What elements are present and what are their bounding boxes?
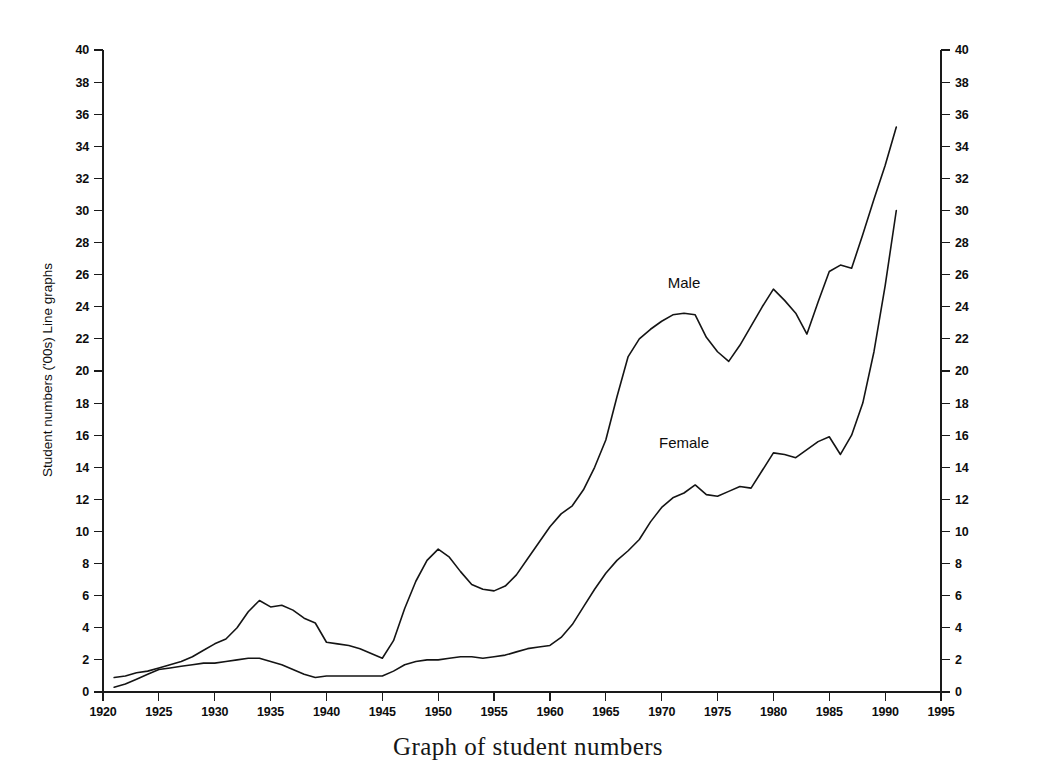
y-tick-label-right: 14 (955, 461, 969, 475)
y-tick-label-left: 32 (75, 172, 89, 186)
y-tick-label-right: 34 (955, 140, 969, 154)
chart-title: Graph of student numbers (393, 733, 663, 760)
y-tick-label-right: 40 (955, 43, 969, 57)
x-tick-label: 1995 (927, 705, 954, 719)
left-y-tick-group: 0246810121416182022242628303234363840 (75, 43, 103, 699)
x-tick-label: 1940 (313, 705, 340, 719)
y-tick-label-left: 24 (75, 300, 89, 314)
x-tick-label: 1965 (592, 705, 619, 719)
y-tick-label-right: 32 (955, 172, 969, 186)
x-tick-label: 1970 (648, 705, 675, 719)
series-group (114, 127, 896, 687)
y-tick-label-left: 34 (75, 140, 89, 154)
x-tick-label: 1955 (481, 705, 508, 719)
series-label-female: Female (659, 434, 709, 451)
y-tick-label-right: 4 (955, 621, 962, 635)
y-tick-label-right: 26 (955, 268, 969, 282)
y-tick-label-right: 24 (955, 300, 969, 314)
y-tick-label-right: 2 (955, 653, 962, 667)
y-tick-label-right: 0 (955, 685, 962, 699)
x-tick-label: 1930 (201, 705, 228, 719)
y-tick-label-left: 14 (75, 461, 89, 475)
y-tick-label-left: 12 (75, 493, 89, 507)
series-label-male: Male (668, 274, 701, 291)
y-tick-label-left: 20 (75, 364, 89, 378)
y-tick-label-left: 22 (75, 332, 89, 346)
y-tick-label-left: 30 (75, 204, 89, 218)
right-y-tick-group: 0246810121416182022242628303234363840 (941, 43, 969, 699)
y-tick-label-right: 30 (955, 204, 969, 218)
y-tick-label-left: 8 (82, 557, 89, 571)
y-tick-label-right: 16 (955, 429, 969, 443)
y-tick-label-right: 18 (955, 397, 969, 411)
y-tick-label-right: 8 (955, 557, 962, 571)
y-tick-label-right: 20 (955, 364, 969, 378)
y-tick-label-right: 10 (955, 525, 969, 539)
y-tick-label-right: 38 (955, 76, 969, 90)
y-tick-label-left: 10 (75, 525, 89, 539)
y-tick-label-left: 26 (75, 268, 89, 282)
y-tick-label-right: 28 (955, 236, 969, 250)
y-tick-label-left: 0 (82, 685, 89, 699)
chart-container: 0246810121416182022242628303234363840 02… (0, 0, 1046, 784)
x-tick-label: 1950 (425, 705, 452, 719)
y-tick-label-left: 28 (75, 236, 89, 250)
y-tick-label-right: 22 (955, 332, 969, 346)
y-tick-label-right: 36 (955, 108, 969, 122)
y-axis-title: Student numbers ('00s) Line graphs (40, 263, 55, 477)
series-line-male (114, 127, 896, 678)
y-tick-label-right: 6 (955, 589, 962, 603)
y-tick-label-left: 38 (75, 76, 89, 90)
y-tick-label-left: 36 (75, 108, 89, 122)
y-tick-label-left: 18 (75, 397, 89, 411)
y-tick-label-left: 6 (82, 589, 89, 603)
x-tick-label: 1935 (257, 705, 284, 719)
x-tick-label: 1985 (816, 705, 843, 719)
y-tick-label-left: 2 (82, 653, 89, 667)
x-tick-label: 1945 (369, 705, 396, 719)
y-tick-label-left: 4 (82, 621, 89, 635)
x-tick-label: 1975 (704, 705, 731, 719)
series-label-group: MaleFemale (659, 274, 709, 452)
x-tick-label: 1920 (89, 705, 116, 719)
x-tick-group: 1920192519301935194019451950195519601965… (89, 692, 954, 719)
line-chart: 0246810121416182022242628303234363840 02… (0, 0, 1046, 784)
x-tick-label: 1925 (145, 705, 172, 719)
series-line-female (114, 211, 896, 688)
x-tick-label: 1960 (536, 705, 563, 719)
y-tick-label-left: 16 (75, 429, 89, 443)
y-tick-label-left: 40 (75, 43, 89, 57)
y-tick-label-right: 12 (955, 493, 969, 507)
x-axis: 1920192519301935194019451950195519601965… (89, 692, 954, 719)
right-y-axis: 0246810121416182022242628303234363840 (941, 43, 969, 699)
x-tick-label: 1980 (760, 705, 787, 719)
x-tick-label: 1990 (872, 705, 899, 719)
left-y-axis: 0246810121416182022242628303234363840 (75, 43, 103, 699)
